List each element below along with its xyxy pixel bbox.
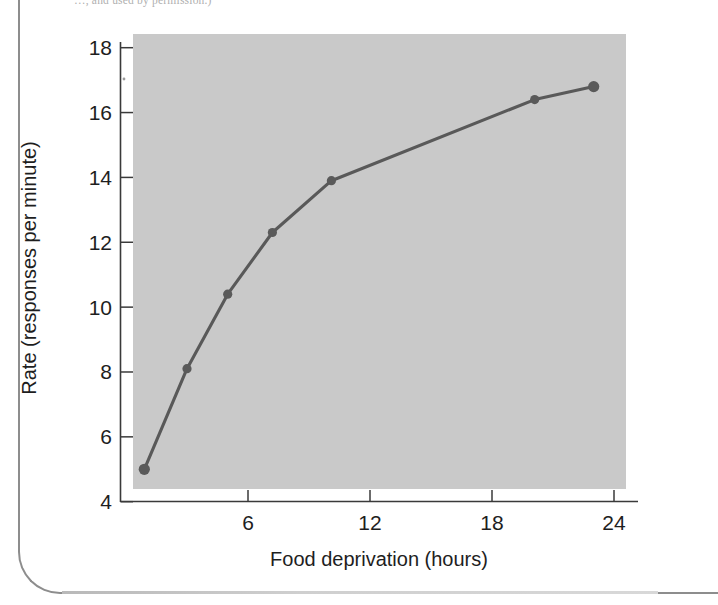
x-tick-label: 24 [602, 511, 626, 534]
data-point [268, 228, 277, 237]
data-point [139, 464, 150, 475]
x-axis-ticks: 6121824 [242, 490, 626, 534]
y-axis-ticks: 4681012141618 [89, 36, 133, 513]
x-tick-label: 12 [358, 511, 381, 534]
y-axis-title: Rate (responses per minute) [18, 141, 40, 394]
x-tick-label: 18 [480, 511, 503, 534]
y-tick-label: 4 [100, 490, 112, 513]
data-point [588, 81, 599, 92]
y-tick-label: 14 [89, 166, 113, 189]
y-tick-label: 12 [89, 231, 112, 254]
scan-speck [123, 78, 126, 81]
x-axis-title: Food deprivation (hours) [270, 548, 488, 570]
data-point [530, 95, 539, 104]
x-tick-label: 6 [242, 511, 254, 534]
data-point [327, 176, 336, 185]
y-tick-label: 16 [89, 101, 112, 124]
y-tick-label: 8 [100, 360, 112, 383]
y-tick-label: 10 [89, 296, 112, 319]
y-tick-label: 18 [89, 36, 112, 59]
data-point [223, 290, 232, 299]
plot-area-background [133, 34, 626, 489]
y-tick-label: 6 [100, 425, 112, 448]
data-point [182, 364, 191, 373]
